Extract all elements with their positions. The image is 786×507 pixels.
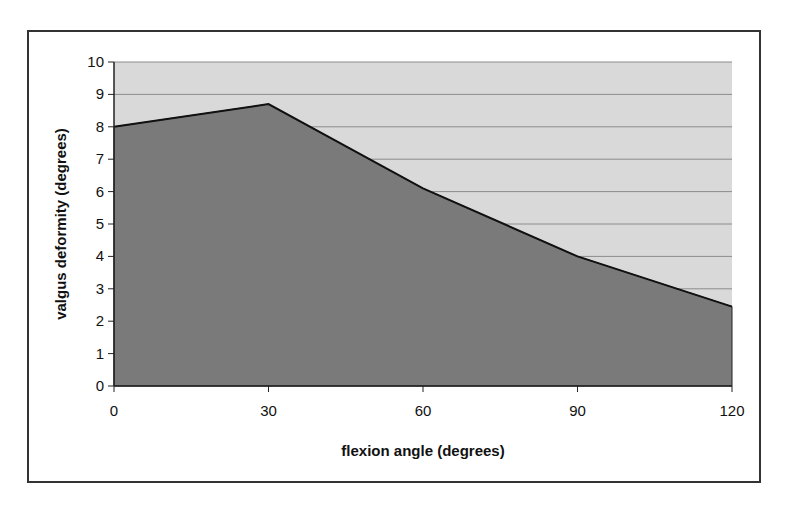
x-axis-ticks: 0306090120 [110, 386, 745, 419]
y-tick-label: 9 [96, 85, 104, 102]
x-tick-label: 90 [569, 402, 586, 419]
x-tick-label: 30 [260, 402, 277, 419]
y-tick-label: 1 [96, 345, 104, 362]
x-tick-label: 120 [719, 402, 744, 419]
y-tick-label: 8 [96, 118, 104, 135]
y-tick-label: 10 [87, 53, 104, 70]
y-axis-ticks: 012345678910 [87, 53, 114, 394]
area-chart: 012345678910 0306090120 flexion angle (d… [0, 0, 786, 507]
x-axis-title: flexion angle (degrees) [341, 442, 504, 459]
y-tick-label: 6 [96, 183, 104, 200]
y-tick-label: 2 [96, 312, 104, 329]
x-tick-label: 60 [415, 402, 432, 419]
y-tick-label: 5 [96, 215, 104, 232]
y-tick-label: 3 [96, 280, 104, 297]
y-axis-title: valgus deformity (degrees) [52, 128, 69, 320]
x-tick-label: 0 [110, 402, 118, 419]
y-tick-label: 7 [96, 150, 104, 167]
y-tick-label: 4 [96, 247, 104, 264]
y-tick-label: 0 [96, 377, 104, 394]
